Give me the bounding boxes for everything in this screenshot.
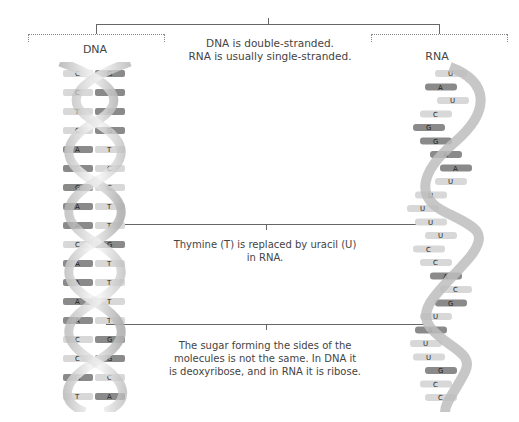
rna-base: U [437,97,469,105]
dna-base-label: A [75,146,80,154]
rna-base-label: U [448,178,453,186]
bracket-top-line [96,24,440,25]
rna-base-label: C [433,381,438,389]
rna-base-label: C [433,111,438,119]
dna-base-label: T [74,393,80,401]
dna-base-label: T [106,260,112,268]
dna-dotted-bracket-left [28,34,29,42]
rna-base: U [435,178,467,186]
rna-base-label: U [433,313,438,321]
rna-base-label: A [438,84,443,92]
dna-base-label: A [75,203,80,211]
caption-base-line2: in RNA. [150,251,380,264]
dna-dotted-bracket [28,34,164,35]
dna-base-label: A [107,393,112,401]
rna-base-label: U [428,219,433,227]
dna-title: DNA [70,43,120,56]
caption-strand: DNA is double-stranded. RNA is usually s… [160,37,380,63]
rna-base-label: U [423,340,428,348]
caption-base: Thymine (T) is replaced by uracil (U) in… [150,238,380,264]
rna-base-label: C [426,246,431,254]
rna-base: U [413,354,445,362]
rna-base-label: C [438,394,443,402]
rna-base-label: G [426,124,431,132]
rna-base-label: G [438,367,443,375]
rna-base-label: C [433,259,438,267]
rna-base-label: C [453,286,458,294]
caption-base-line1: Thymine (T) is replaced by uracil (U) [150,238,380,251]
connector-line-base [106,224,424,225]
dna-base-label: T [106,146,112,154]
caption-strand-line1: DNA is double-stranded. [160,37,380,50]
dna-base-label: G [107,336,112,344]
rna-base-label: U [420,205,425,213]
rna-base: C [420,111,452,119]
connector-line-sugar [106,324,424,325]
bracket-right-drop [439,24,440,34]
rna-base: G [435,300,467,308]
caption-sugar: The sugar forming the sides of the molec… [150,339,380,378]
bracket-left-drop [96,24,97,34]
rna-dotted-bracket [371,34,507,35]
rna-base: C [420,381,452,389]
caption-sugar-line3: is deoxyribose, and in RNA it is ribose. [150,365,380,378]
rna-base: U [415,219,447,227]
connector-tick-sugar [266,324,267,330]
dna-double-helix: CGCGTACGATGCGCATATCGATATATATCGCGGCTA [55,62,135,412]
rna-base-label: G [433,138,438,146]
rna-single-helix: UAUCGGAAUUUUUCCACGUAUUGCC [395,62,505,412]
dna-base-label: T [106,203,112,211]
rna-base: G [425,367,457,375]
dna-base-label: A [75,298,80,306]
rna-base: A [425,84,457,92]
caption-sugar-line1: The sugar forming the sides of the [150,339,380,352]
rna-base: A [440,165,472,173]
rna-base: C [413,246,445,254]
rna-base-label: U [426,354,431,362]
rna-base-label: G [448,300,453,308]
caption-strand-line2: RNA is usually single-stranded. [160,50,380,63]
rna-base: U [425,232,457,240]
rna-base: U [410,340,442,348]
rna-base: C [420,259,452,267]
rna-base-label: U [450,97,455,105]
connector-tick-base [266,224,267,230]
rna-base-label: A [453,165,458,173]
rna-base: G [413,124,445,132]
caption-sugar-line2: molecules is not the same. In DNA it [150,352,380,365]
rna-dotted-bracket-right [507,34,508,42]
rna-base-label: U [438,232,443,240]
